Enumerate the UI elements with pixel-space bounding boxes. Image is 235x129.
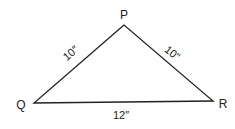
vertex-label-p: P bbox=[120, 8, 128, 22]
side-label-pq: 10″ bbox=[60, 43, 80, 63]
triangle-diagram: P Q R 10″ 10″ 12″ bbox=[0, 0, 235, 129]
vertex-label-q: Q bbox=[16, 98, 25, 112]
triangle-pqr bbox=[34, 25, 213, 103]
vertex-label-r: R bbox=[219, 97, 228, 111]
side-label-qr: 12″ bbox=[113, 109, 129, 121]
